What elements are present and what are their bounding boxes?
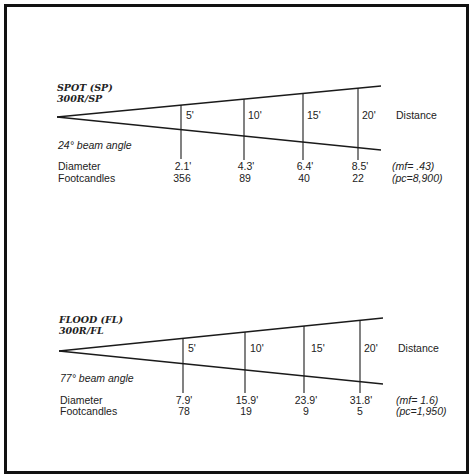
spot-distance-5: 5' (186, 109, 194, 121)
spot-diameter-20: 8.5' (352, 160, 369, 172)
spot-diameter-15: 6.4' (297, 160, 314, 172)
flood-distance-10: 10' (250, 342, 264, 354)
spot-title: SPOT (SP) (57, 82, 113, 93)
spot-diagram: SPOT (SP) 300R/SP 5' 10' 15' 20' Distanc… (57, 82, 443, 184)
flood-footcandles-20: 5 (357, 405, 363, 417)
flood-distance-20: 20' (364, 342, 378, 354)
spot-beam-angle: 24° beam angle (57, 139, 132, 151)
spot-diameter-10: 4.3' (238, 160, 255, 172)
flood-footcandles-15: 9 (303, 405, 309, 417)
spot-pc: (pc=8,900) (392, 172, 443, 184)
flood-title: FLOOD (FL) (58, 314, 123, 325)
flood-footcandles-10: 19 (240, 405, 252, 417)
flood-beam-angle: 77° beam angle (60, 372, 134, 384)
spot-diameter-label: Diameter (58, 160, 101, 172)
flood-model: 300R/FL (59, 325, 104, 336)
flood-distance-15: 15' (311, 342, 325, 354)
spot-model: 300R/SP (57, 93, 103, 104)
flood-pc: (pc=1,950) (396, 405, 447, 417)
spot-footcandles-15: 40 (298, 172, 310, 184)
flood-footcandles-5: 78 (178, 405, 190, 417)
flood-distance-5: 5' (188, 342, 196, 354)
spot-distance-10: 10' (248, 109, 262, 121)
spot-distance-15: 15' (307, 109, 321, 121)
spot-footcandles-10: 89 (239, 172, 251, 184)
spot-distance-label: Distance (396, 109, 437, 121)
spot-diameter-5: 2.1' (175, 160, 192, 172)
flood-footcandles-label: Footcandles (60, 405, 117, 417)
spot-mf: (mf= .43) (392, 160, 434, 172)
spot-footcandles-5: 356 (173, 172, 191, 184)
spot-distance-20: 20' (362, 109, 376, 121)
flood-diagram: FLOOD (FL) 300R/FL 5' 10' 15' 20' Distan… (58, 314, 447, 417)
spot-footcandles-label: Footcandles (58, 172, 115, 184)
flood-distance-label: Distance (398, 342, 439, 354)
spot-footcandles-20: 22 (352, 172, 364, 184)
